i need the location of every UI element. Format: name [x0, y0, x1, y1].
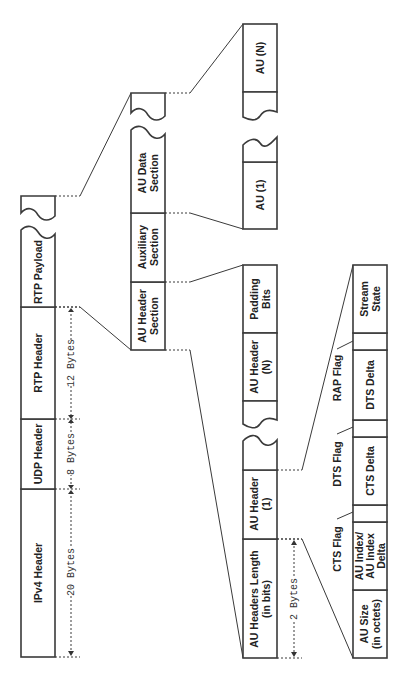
cts-flag-box [353, 505, 387, 522]
au-header-n-label-1: AU Header [248, 340, 260, 394]
stream-state-label-2: State [370, 286, 382, 312]
packet-strip: IPv4 Header UDP Header RTP Header RTP Pa… [21, 196, 55, 657]
rtp-payload-tail [21, 196, 55, 220]
au-size-label-1: AU Size [358, 604, 370, 643]
rtp-label: RTP Header [32, 333, 44, 392]
au-n-label: AU (N) [254, 42, 266, 75]
ipv4-size: 20 Bytes [66, 548, 77, 596]
au-data-section-label-1: AU Data [136, 152, 148, 193]
udp-size: 8 Bytes [66, 433, 77, 475]
au-index-label-3: Delta [375, 543, 387, 569]
length-size: 2 Bytes [289, 578, 300, 620]
udp-label: UDP Header [32, 424, 44, 485]
stream-state-label-1: Stream [358, 281, 370, 317]
packet-size-annotations: 20 Bytes 8 Bytes 12 Bytes [55, 307, 80, 657]
au-data-strip: AU (1) AU (N) [243, 24, 277, 229]
au-header-1-label-2: (1) [260, 498, 272, 511]
ipv4-label: IPv4 Header [32, 543, 44, 603]
au-header-1-label-1: AU Header [248, 477, 260, 531]
au-headers-length-label-1: AU Headers Length [248, 550, 260, 647]
au-data-section-label-2: Section [148, 154, 160, 192]
au-1-label: AU (1) [254, 180, 266, 211]
rtp-packet-diagram: IPv4 Header UDP Header RTP Header RTP Pa… [0, 0, 410, 688]
dts-flag-box [353, 420, 387, 437]
dts-flag-label: DTS Flag [331, 441, 343, 487]
rap-flag-label: RAP Flag [331, 355, 343, 401]
payload-sections-strip: AU Header Section Auxiliary Section AU D… [131, 93, 165, 350]
au-header-section-label-1: AU Header [136, 289, 148, 343]
payload-label: RTP Payload [32, 240, 44, 304]
flag-callouts: CTS Flag DTS Flag RAP Flag [331, 341, 353, 572]
au-header-n-label-2: (N) [260, 360, 272, 375]
au-data-section-tail [131, 93, 165, 120]
cts-flag-label: CTS Flag [331, 526, 343, 572]
au-header-section-label-2: Section [148, 297, 160, 335]
dts-delta-label: DTS Delta [364, 360, 376, 410]
cts-delta-label: CTS Delta [364, 446, 376, 496]
au-header-fields-strip: AU Size (in octets) AU Index/ AU Index D… [353, 265, 387, 658]
length-size-annotation: 2 Bytes [277, 539, 302, 658]
rap-flag-box [353, 333, 387, 350]
au-header-strip: AU Headers Length (in bits) AU Header (1… [243, 265, 277, 658]
auxiliary-section-label-1: Auxiliary [136, 225, 148, 270]
au-size-label-2: (in octets) [370, 599, 382, 649]
auxiliary-section-label-2: Section [148, 228, 160, 266]
rtp-size: 12 Bytes [66, 339, 77, 387]
padding-bits-label-1: Padding [248, 278, 260, 319]
padding-bits-label-2: Bits [260, 289, 272, 309]
au-headers-length-label-2: (in bits) [260, 580, 272, 618]
